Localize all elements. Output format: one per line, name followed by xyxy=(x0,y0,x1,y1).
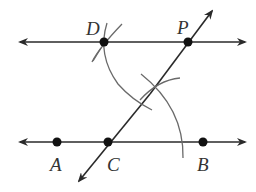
point-p xyxy=(184,38,193,47)
arc-from-c-large xyxy=(141,74,183,158)
label-b: B xyxy=(197,154,209,175)
label-p: P xyxy=(176,17,189,38)
point-c xyxy=(104,138,113,147)
point-d xyxy=(100,38,109,47)
arc-at-d-tick xyxy=(93,48,101,61)
point-a xyxy=(53,138,62,147)
parallel-line-construction-diagram: D P A C B xyxy=(0,0,256,192)
label-a: A xyxy=(48,154,62,175)
point-b xyxy=(199,138,208,147)
label-c: C xyxy=(107,154,120,175)
label-d: D xyxy=(85,18,100,39)
